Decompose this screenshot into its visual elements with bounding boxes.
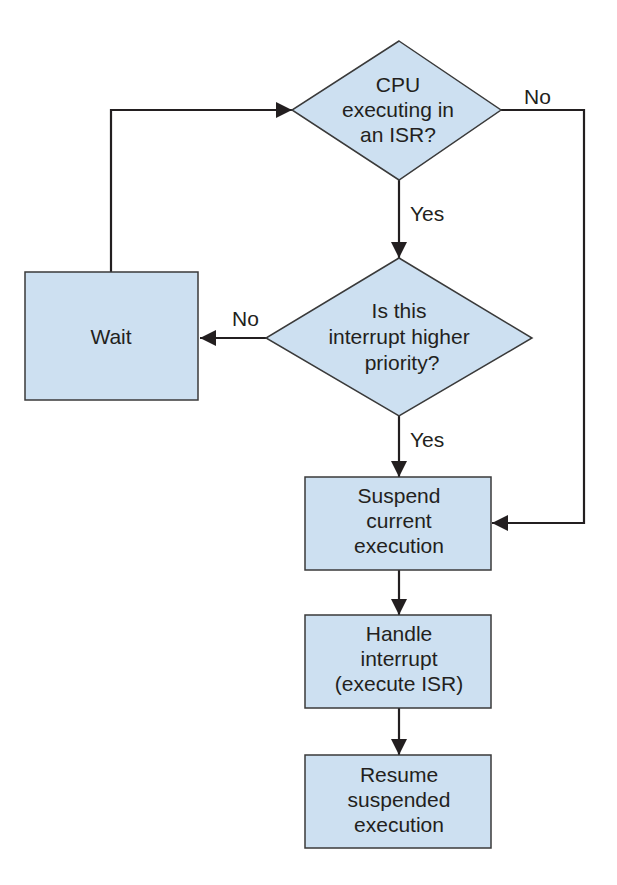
node-wait-label: Wait [90, 325, 131, 348]
node-resume-line-3: execution [354, 813, 444, 836]
node-cpu-in-isr-line-2: executing in [342, 98, 454, 121]
node-handle-line-2: interrupt [360, 647, 437, 670]
node-higher-priority-line-2: interrupt higher [328, 325, 469, 348]
node-suspend-line-3: execution [354, 534, 444, 557]
node-higher-priority-line-1: Is this [372, 299, 427, 322]
nodes [25, 41, 532, 848]
node-cpu-in-isr-line-1: CPU [376, 73, 420, 96]
node-suspend-line-1: Suspend [358, 484, 441, 507]
node-handle-line-1: Handle [366, 622, 433, 645]
flowchart: CPU executing in an ISR? Is this interru… [0, 0, 617, 885]
node-higher-priority-line-3: priority? [365, 351, 440, 374]
node-cpu-in-isr-line-3: an ISR? [360, 123, 436, 146]
node-suspend-line-2: current [366, 509, 432, 532]
edge-label-prio-yes: Yes [410, 428, 444, 451]
edge-cpu-no [492, 110, 584, 523]
edge-wait-loop [111, 110, 292, 272]
node-resume-line-2: suspended [348, 788, 451, 811]
edge-label-cpu-no: No [524, 85, 551, 108]
edge-label-cpu-yes: Yes [410, 202, 444, 225]
edge-label-prio-no: No [232, 307, 259, 330]
node-resume-line-1: Resume [360, 763, 438, 786]
node-handle-line-3: (execute ISR) [335, 672, 463, 695]
